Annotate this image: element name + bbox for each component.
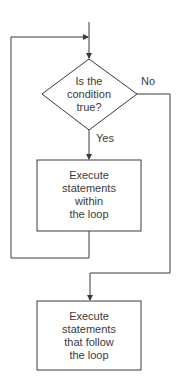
loop-body-line-3: within: [37, 195, 141, 208]
after-loop-line-2: statements: [37, 323, 141, 336]
no-label: No: [138, 75, 158, 87]
after-loop-line-4: the loop: [37, 349, 141, 362]
after-loop-line-1: Execute: [37, 310, 141, 323]
yes-label: Yes: [93, 132, 117, 144]
decision-line-2: condition: [52, 88, 126, 101]
loop-body-line-4: the loop: [37, 208, 141, 221]
decision-line-1: Is the: [52, 75, 126, 88]
loop-body-text: Execute statements within the loop: [37, 169, 141, 221]
decision-line-3: true?: [52, 101, 126, 114]
decision-text: Is the condition true?: [52, 75, 126, 114]
after-loop-text: Execute statements that follow the loop: [37, 310, 141, 362]
loop-body-line-2: statements: [37, 182, 141, 195]
after-loop-line-3: that follow: [37, 336, 141, 349]
loop-body-line-1: Execute: [37, 169, 141, 182]
